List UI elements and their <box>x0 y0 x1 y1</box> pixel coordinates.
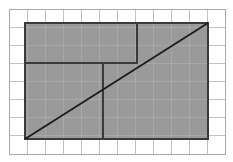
geometry-figure-svg <box>0 0 233 162</box>
figure-container <box>0 0 233 162</box>
